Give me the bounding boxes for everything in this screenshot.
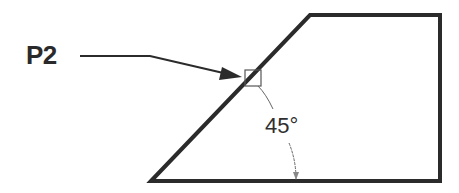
angle-arrowhead-icon (293, 172, 299, 180)
angle-label: 45° (265, 113, 298, 139)
arrowhead-icon (219, 67, 242, 80)
leader-arrow-line (80, 56, 232, 75)
angle-arc-upper (258, 86, 273, 109)
diagram-canvas (0, 0, 459, 193)
trapezoid-shape (151, 15, 440, 181)
point-label-p2: P2 (26, 40, 57, 71)
